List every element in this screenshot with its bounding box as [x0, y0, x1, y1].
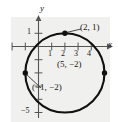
y-tick-label-neg5: −5: [21, 107, 30, 115]
x-tick-label-4: 4: [87, 50, 91, 58]
point-marker-top: [62, 31, 67, 36]
x-tick-label-1: 1: [48, 50, 52, 58]
leader-line-top: [66, 29, 81, 33]
x-axis-label: x: [108, 40, 112, 49]
y-tick-label-1: 1: [27, 28, 31, 36]
point-label-top: (2, 1): [80, 23, 100, 32]
x-tick-label-2: 2: [61, 50, 65, 58]
point-marker-right: [102, 70, 107, 75]
y-axis-label: y: [40, 4, 44, 13]
point-marker-left: [23, 70, 28, 75]
x-tick-label-3: 3: [74, 50, 78, 58]
point-label-left: (−1, −2): [32, 83, 62, 92]
graph-figure: x y 1 2 3 4 1 −5 (2, 1) (5, −2) (−1, −2): [0, 0, 118, 122]
point-label-right: (5, −2): [57, 60, 82, 69]
